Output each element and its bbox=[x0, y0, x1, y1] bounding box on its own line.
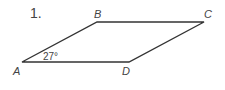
vertex-label-d: D bbox=[122, 65, 130, 77]
vertex-label-b: B bbox=[94, 8, 101, 20]
vertex-label-a: A bbox=[12, 65, 20, 77]
parallelogram-diagram: 1. B C A D 27° bbox=[0, 0, 225, 90]
angle-label: 27° bbox=[43, 51, 58, 62]
problem-number: 1. bbox=[30, 5, 42, 21]
vertex-label-c: C bbox=[204, 8, 212, 20]
